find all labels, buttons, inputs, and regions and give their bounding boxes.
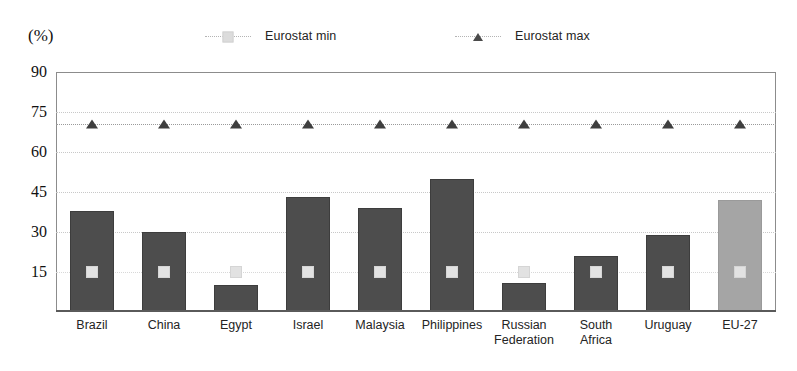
min-marker [734, 266, 746, 278]
legend-label-max: Eurostat max [515, 29, 590, 43]
bar-group[interactable] [416, 72, 488, 312]
chart-figure: (%) Eurostat min Eurostat max 9075604530… [0, 0, 797, 371]
max-marker [446, 120, 458, 129]
bar[interactable] [430, 179, 474, 312]
y-axis-tick-label: 75 [31, 103, 47, 121]
bar[interactable] [502, 283, 546, 312]
max-marker [518, 120, 530, 129]
bar-group[interactable] [200, 72, 272, 312]
y-axis-tick-label: 90 [31, 63, 47, 81]
bar-group[interactable] [272, 72, 344, 312]
max-marker [302, 120, 314, 129]
bar-group[interactable] [344, 72, 416, 312]
x-axis-label: Philippines [416, 318, 488, 333]
bar[interactable] [718, 200, 762, 312]
min-marker [662, 266, 674, 278]
x-axis-label: South Africa [560, 318, 632, 348]
bar-group[interactable] [704, 72, 776, 312]
min-marker [374, 266, 386, 278]
x-axis-label: Uruguay [632, 318, 704, 333]
y-axis-tick-label: 15 [31, 263, 47, 281]
x-axis-label: Brazil [56, 318, 128, 333]
x-axis-label: Israel [272, 318, 344, 333]
max-marker [374, 120, 386, 129]
bar-series [56, 72, 776, 312]
square-marker-icon [223, 31, 234, 42]
max-marker [590, 120, 602, 129]
min-marker [230, 266, 242, 278]
bar[interactable] [70, 211, 114, 312]
x-axis-label: Russian Federation [488, 318, 560, 348]
bar-group[interactable] [128, 72, 200, 312]
bar[interactable] [214, 285, 258, 312]
max-marker [158, 120, 170, 129]
max-marker [734, 120, 746, 129]
min-marker [518, 266, 530, 278]
x-axis-baseline [56, 310, 776, 312]
bar-group[interactable] [632, 72, 704, 312]
chart-legend: Eurostat min Eurostat max [0, 22, 797, 50]
triangle-marker-icon [473, 33, 483, 41]
x-axis-label: Malaysia [344, 318, 416, 333]
min-marker [590, 266, 602, 278]
y-axis-tick-label: 30 [31, 223, 47, 241]
max-marker [86, 120, 98, 129]
min-marker [446, 266, 458, 278]
bar[interactable] [574, 256, 618, 312]
plot-area: 907560453015 [56, 72, 776, 312]
y-axis-tick-label: 60 [31, 143, 47, 161]
bar-group[interactable] [56, 72, 128, 312]
x-axis-label: Egypt [200, 318, 272, 333]
legend-line-max [455, 36, 501, 37]
min-marker [302, 266, 314, 278]
bar-group[interactable] [488, 72, 560, 312]
x-axis-label: EU-27 [704, 318, 776, 333]
legend-item-eurostat-max: Eurostat max [455, 26, 590, 46]
x-axis-label: China [128, 318, 200, 333]
max-marker [662, 120, 674, 129]
bar[interactable] [286, 197, 330, 312]
bar-group[interactable] [560, 72, 632, 312]
bar[interactable] [358, 208, 402, 312]
max-marker [230, 120, 242, 129]
legend-line-min [205, 36, 251, 37]
legend-item-eurostat-min: Eurostat min [205, 26, 336, 46]
legend-label-min: Eurostat min [265, 29, 336, 43]
min-marker [86, 266, 98, 278]
min-marker [158, 266, 170, 278]
x-axis-labels: BrazilChinaEgyptIsraelMalaysiaPhilippine… [56, 318, 776, 368]
y-axis-tick-label: 45 [31, 183, 47, 201]
